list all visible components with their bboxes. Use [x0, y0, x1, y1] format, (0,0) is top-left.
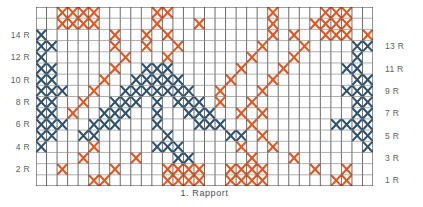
row-label-12-r: 12 R	[11, 52, 30, 62]
row-label-7-r: 7 R	[385, 108, 399, 118]
row-labels-left: 14 R12 R10 R8 R6 R4 R2 R	[0, 0, 34, 207]
chart-grid-container	[36, 7, 373, 186]
rapport-label: 1. Rapport	[36, 188, 373, 198]
row-label-4-r: 4 R	[16, 142, 30, 152]
knitting-chart: 14 R12 R10 R8 R6 R4 R2 R 13 R11 R9 R7 R5…	[0, 0, 423, 207]
row-label-2-r: 2 R	[16, 164, 30, 174]
row-label-9-r: 9 R	[385, 86, 399, 96]
row-labels-right: 13 R11 R9 R7 R5 R3 R1 R	[377, 0, 423, 207]
row-label-6-r: 6 R	[16, 119, 30, 129]
row-label-13-r: 13 R	[385, 41, 404, 51]
row-label-8-r: 8 R	[16, 97, 30, 107]
row-label-11-r: 11 R	[385, 64, 404, 74]
row-label-5-r: 5 R	[385, 131, 399, 141]
chart-grid	[36, 7, 373, 186]
row-label-3-r: 3 R	[385, 153, 399, 163]
row-label-1-r: 1 R	[385, 175, 399, 185]
row-label-10-r: 10 R	[11, 75, 30, 85]
row-label-14-r: 14 R	[11, 30, 30, 40]
